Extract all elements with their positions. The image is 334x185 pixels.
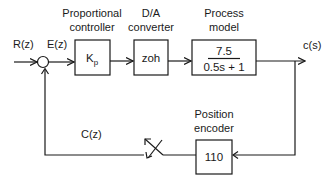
process-title-2: model	[209, 21, 239, 33]
encoder-title-2: encoder	[194, 122, 234, 134]
controller-title-1: Proportional	[62, 7, 121, 19]
controller-title-2: controller	[69, 21, 115, 33]
process-denominator: 0.5s + 1	[203, 61, 244, 73]
output-label: c(s)	[303, 39, 321, 51]
dac-title-2: converter	[128, 21, 174, 33]
process-title-1: Process	[204, 7, 244, 19]
closed-loop-block-diagram: R(z) E(z) Proportional controller Kp D/A…	[0, 0, 334, 185]
encoder-title-1: Position	[194, 108, 233, 120]
dac-content: zoh	[142, 52, 161, 64]
controller-block: Proportional controller Kp	[62, 7, 121, 75]
summing-junction	[38, 57, 49, 68]
encoder-content: 110	[205, 151, 223, 163]
sampler-blade	[148, 140, 162, 158]
encoder-block: Position encoder 110	[194, 108, 234, 174]
error-label: E(z)	[47, 38, 67, 50]
sampler-switch	[145, 139, 163, 158]
sampler-blade-arrowhead	[146, 152, 152, 158]
feedback-line-left	[45, 70, 144, 155]
dac-title-1: D/A	[142, 7, 161, 19]
input-signal: R(z)	[13, 38, 37, 62]
input-label: R(z)	[13, 38, 34, 50]
feedback-label: C(z)	[81, 128, 102, 140]
process-block: Process model 7.5 0.5s + 1	[192, 7, 256, 75]
process-numerator: 7.5	[216, 45, 232, 57]
dac-block: D/A converter zoh	[128, 7, 174, 75]
